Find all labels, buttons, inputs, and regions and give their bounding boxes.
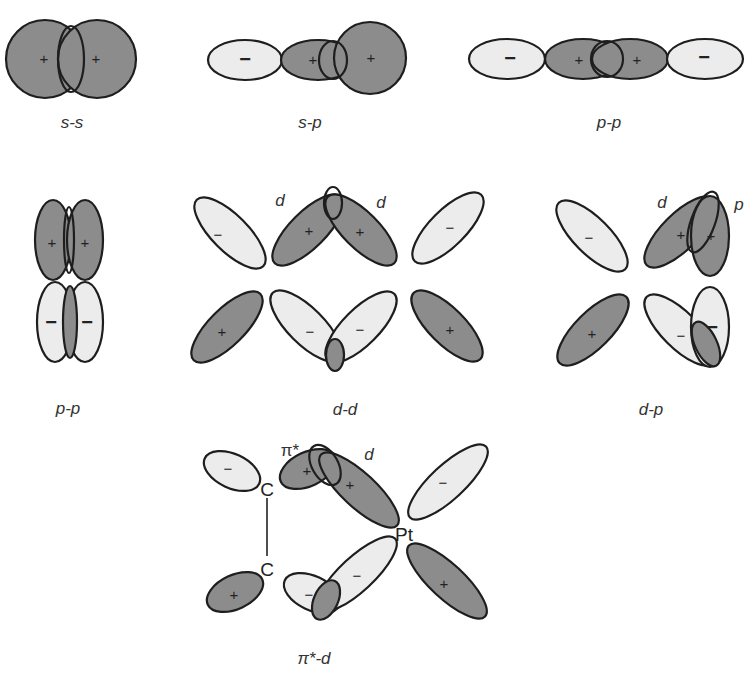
sign-plus: + [81,234,90,251]
sign-minus: − [585,229,594,246]
label-d: d [275,191,285,210]
label-pi-star: π* [281,441,300,460]
sign-minus: − [81,311,93,333]
pt-d-lobe-negative [398,434,497,530]
sign-minus: − [353,567,362,584]
sign-plus: + [309,51,318,68]
sign-plus: + [440,575,449,592]
sign-minus: − [677,327,686,344]
label-d: d [364,445,374,464]
panel-p-p-sigma: − + + − p-p [469,39,743,132]
caption-d-p: d-p [639,400,664,419]
atom-carbon-top: C [260,479,274,500]
overlap-lower [326,339,344,371]
sign-plus: + [633,51,642,68]
panel-d-p: − + + + − − d p d-p [546,186,744,419]
sign-plus: + [677,226,686,243]
sign-minus: − [224,460,233,477]
sign-plus: + [575,51,584,68]
sign-minus: − [356,321,365,338]
sign-minus: − [446,219,455,236]
sign-plus: + [40,50,49,67]
sign-plus: + [230,586,239,603]
caption-s-s: s-s [61,113,84,132]
sign-plus: + [48,234,57,251]
label-d: d [376,193,386,212]
d-lobe-negative [184,187,276,279]
label-d: d [657,193,667,212]
d-lobe-positive [181,281,273,373]
sign-plus: + [446,321,455,338]
sign-minus: − [306,323,315,340]
sign-minus: − [698,46,710,68]
p-lobe-positive-right [592,39,668,79]
sign-plus: + [367,49,376,66]
panel-s-p: − + + s-p [208,22,406,132]
sign-minus: − [706,316,718,338]
sign-plus: + [588,325,597,342]
caption-pi-star-d: π*-d [297,649,331,668]
sign-plus: + [707,227,716,244]
orbital-overlap-diagram: + + s-s − + + s-p − + + − p-p + + − [0,0,756,681]
label-p: p [733,195,743,214]
sign-minus: − [45,311,57,333]
atom-carbon-bottom: C [260,559,274,580]
caption-s-p: s-p [298,113,322,132]
sign-plus: + [92,50,101,67]
panel-pi-star-d: C C Pt − + + − + − − + π* d π*-d [198,434,498,668]
sign-plus: + [218,323,227,340]
sign-minus: − [239,48,251,70]
atom-platinum: Pt [395,524,414,545]
sign-plus: + [303,462,312,479]
sign-minus: − [214,226,223,243]
sign-minus: − [504,47,516,69]
panel-s-s: + + s-s [6,20,136,132]
panel-d-d: − + + − + − − + d d d-d [181,182,494,419]
panel-p-p-pi: + + − − p-p [35,200,103,418]
sign-minus: − [439,474,448,491]
sign-plus: + [305,222,314,239]
caption-p-p-sigma: p-p [596,113,622,132]
caption-p-p-pi: p-p [55,399,81,418]
overlap-lower [63,286,77,358]
caption-d-d: d-d [333,400,358,419]
sign-plus: + [356,223,365,240]
sign-minus: − [305,586,314,603]
pt-d-lobe-positive [309,442,408,538]
sign-plus: + [346,476,355,493]
